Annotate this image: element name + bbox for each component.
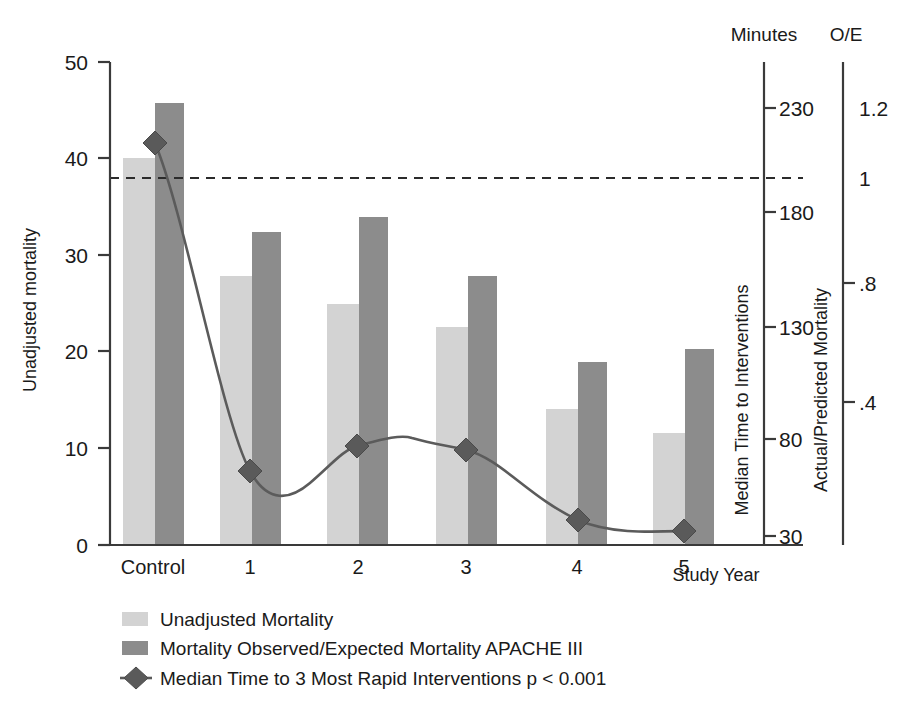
oe-axis: 1.2 1 .8 .4 O/E Actual/Predicted Mortali… [811,24,888,545]
bar-light-control [123,158,155,545]
left-tick-20: 20 [65,340,88,363]
bar-light-y1 [220,276,252,545]
x-axis-title: Study Year [672,565,759,585]
bar-dark-y3 [468,276,497,545]
legend-label-median-time: Median Time to 3 Most Rapid Intervention… [160,668,606,689]
cat-label-2: 2 [352,556,363,578]
minutes-tick-180: 180 [779,201,814,224]
bar-dark-control [155,103,184,545]
oe-axis-title: Actual/Predicted Mortality [811,288,831,492]
x-axis: Control 1 2 3 4 5 Study Year [110,545,803,585]
minutes-tick-80: 80 [779,428,802,451]
cat-label-4: 4 [571,556,582,578]
left-tick-10: 10 [65,437,88,460]
bar-dark-y2 [359,217,388,545]
left-tick-40: 40 [65,147,88,170]
legend-diamond-icon [124,667,148,689]
minutes-axis: 230 180 130 80 30 Minutes Median Time to… [731,24,814,548]
legend: Unadjusted Mortality Mortality Observed/… [120,609,606,689]
minutes-tick-30: 30 [779,525,802,548]
minutes-tick-130: 130 [779,316,814,339]
legend-label-apache: Mortality Observed/Expected Mortality AP… [160,638,583,659]
bar-light-y2 [327,304,359,545]
chart-figure: 50 40 30 20 10 0 Unadjusted mortality Co… [0,0,903,703]
bar-dark-y5 [685,349,714,545]
bar-light-y3 [436,327,468,545]
oe-tick-0_8: .8 [859,272,877,295]
bars-group [123,103,714,545]
oe-tick-1: 1 [859,167,871,190]
oe-tick-1_2: 1.2 [859,97,888,120]
legend-swatch-apache [122,641,148,655]
cat-label-1: 1 [244,556,255,578]
minutes-header: Minutes [731,24,798,45]
legend-swatch-unadjusted [122,612,148,626]
bar-dark-y1 [252,232,281,545]
left-tick-0: 0 [76,534,88,557]
cat-label-control: Control [121,556,185,578]
minutes-tick-230: 230 [779,97,814,120]
left-tick-30: 30 [65,244,88,267]
minutes-axis-title: Median Time to Interventions [732,284,752,515]
oe-header: O/E [830,24,863,45]
oe-tick-0_4: .4 [859,391,877,414]
legend-label-unadjusted: Unadjusted Mortality [160,609,334,630]
left-tick-50: 50 [65,51,88,74]
left-axis-title: Unadjusted mortality [20,228,40,392]
cat-label-3: 3 [460,556,471,578]
left-axis: 50 40 30 20 10 0 Unadjusted mortality [20,51,110,557]
